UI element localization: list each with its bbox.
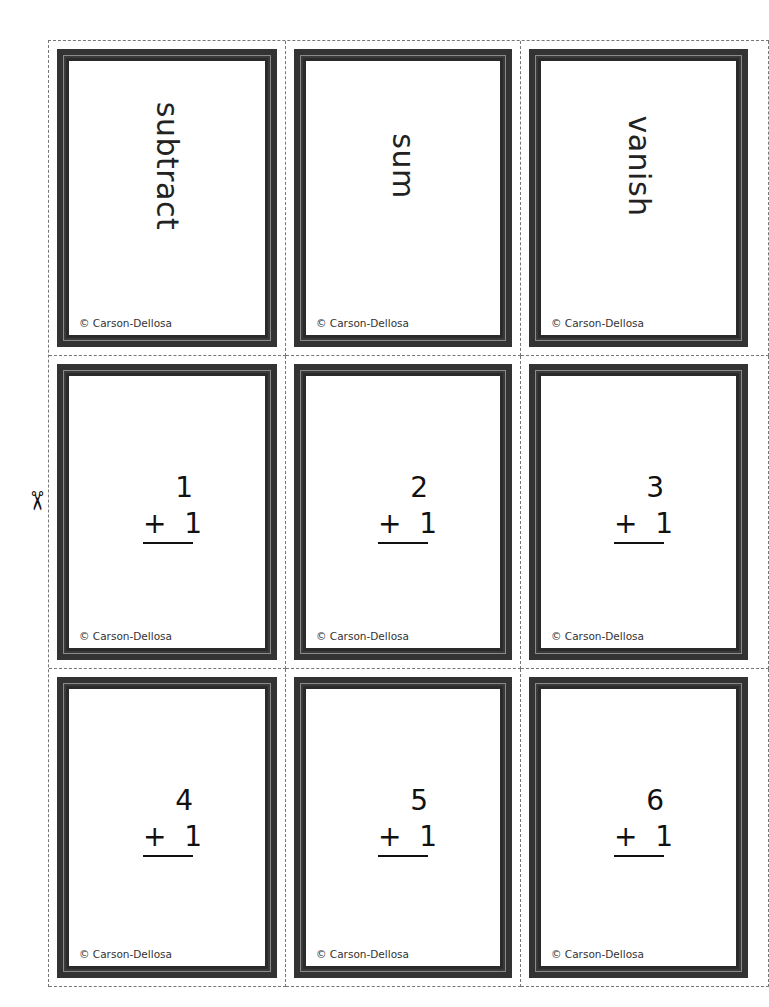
card-3-plus-1: 3 + 1 © Carson-Dellosa xyxy=(521,356,769,669)
copyright: © Carson-Dellosa xyxy=(316,630,409,642)
card-frame: 5 + 1 © Carson-Dellosa xyxy=(294,677,512,978)
card-word: sum xyxy=(386,133,421,198)
copyright: © Carson-Dellosa xyxy=(79,948,172,960)
card-sum: sum © Carson-Dellosa xyxy=(286,41,521,356)
card-frame: 3 + 1 © Carson-Dellosa xyxy=(529,364,748,660)
copyright: © Carson-Dellosa xyxy=(316,948,409,960)
card-sheet: subtract © Carson-Dellosa sum © Carson-D… xyxy=(48,40,769,987)
card-frame: 2 + 1 © Carson-Dellosa xyxy=(294,364,512,660)
copyright: © Carson-Dellosa xyxy=(551,630,644,642)
card-frame: vanish © Carson-Dellosa xyxy=(529,49,748,347)
card-word: subtract xyxy=(150,102,185,230)
math-problem: 3 + 1 xyxy=(614,470,664,544)
card-1-plus-1: 1 + 1 © Carson-Dellosa xyxy=(49,356,286,669)
card-frame: 6 + 1 © Carson-Dellosa xyxy=(529,677,748,978)
copyright: © Carson-Dellosa xyxy=(551,317,644,329)
card-5-plus-1: 5 + 1 © Carson-Dellosa xyxy=(286,669,521,987)
copyright: © Carson-Dellosa xyxy=(79,317,172,329)
card-subtract: subtract © Carson-Dellosa xyxy=(49,41,286,356)
math-problem: 5 + 1 xyxy=(378,783,428,857)
card-4-plus-1: 4 + 1 © Carson-Dellosa xyxy=(49,669,286,987)
copyright: © Carson-Dellosa xyxy=(551,948,644,960)
card-frame: 4 + 1 © Carson-Dellosa xyxy=(57,677,277,978)
card-frame: sum © Carson-Dellosa xyxy=(294,49,512,347)
card-2-plus-1: 2 + 1 © Carson-Dellosa xyxy=(286,356,521,669)
card-vanish: vanish © Carson-Dellosa xyxy=(521,41,769,356)
copyright: © Carson-Dellosa xyxy=(79,630,172,642)
card-6-plus-1: 6 + 1 © Carson-Dellosa xyxy=(521,669,769,987)
card-frame: 1 + 1 © Carson-Dellosa xyxy=(57,364,277,660)
math-problem: 2 + 1 xyxy=(378,470,428,544)
card-word: vanish xyxy=(621,115,656,216)
card-frame: subtract © Carson-Dellosa xyxy=(57,49,277,347)
math-problem: 6 + 1 xyxy=(614,783,664,857)
math-problem: 4 + 1 xyxy=(143,783,193,857)
copyright: © Carson-Dellosa xyxy=(316,317,409,329)
math-problem: 1 + 1 xyxy=(143,470,193,544)
